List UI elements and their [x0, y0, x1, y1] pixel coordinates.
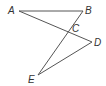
segment-BE: [38, 11, 83, 75]
segment-AD: [19, 11, 92, 42]
label-A: A: [7, 5, 15, 16]
label-E: E: [28, 74, 35, 85]
label-D: D: [94, 37, 101, 48]
label-B: B: [85, 5, 92, 16]
segment-ED: [38, 42, 92, 75]
label-C: C: [72, 23, 80, 34]
geometry-diagram: A B C D E: [0, 0, 106, 86]
